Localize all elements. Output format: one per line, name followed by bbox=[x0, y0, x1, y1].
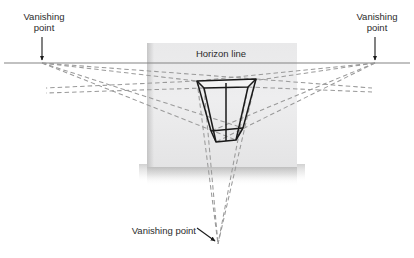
horizon-line-label: Horizon line bbox=[196, 48, 246, 59]
vanishing-point-right-label-line1: Vanishing bbox=[356, 11, 397, 22]
three-point-perspective-figure: Vanishing point Vanishing point Vanishin… bbox=[0, 0, 414, 258]
vanishing-point-bottom-label: Vanishing point bbox=[132, 225, 197, 236]
vanishing-point-left-label-line2: point bbox=[34, 22, 55, 33]
perspective-diagram: Vanishing point Vanishing point Vanishin… bbox=[0, 0, 414, 258]
vanishing-point-left-label-line1: Vanishing bbox=[23, 11, 64, 22]
vanishing-point-right-label-line2: point bbox=[367, 22, 388, 33]
vanishing-point-bottom-arrow bbox=[197, 228, 215, 241]
